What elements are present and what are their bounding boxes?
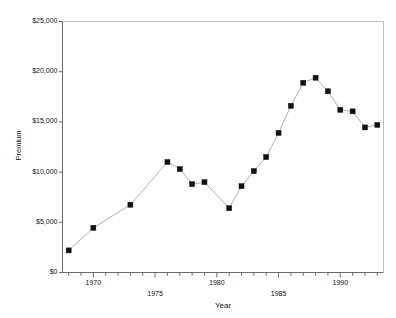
data-point-marker xyxy=(202,180,207,185)
data-point-marker xyxy=(227,206,232,211)
y-axis-title: Premium xyxy=(14,128,23,164)
premium-series-line xyxy=(69,78,378,251)
data-point-marker xyxy=(276,130,281,135)
data-point-marker xyxy=(362,125,367,130)
data-point-marker xyxy=(66,248,71,253)
x-tick-label: 1970 xyxy=(82,279,104,286)
y-tick-label: $25,000 xyxy=(32,17,57,24)
chart-plot-area xyxy=(0,0,396,318)
data-point-marker xyxy=(177,167,182,172)
x-tick-label: 1990 xyxy=(329,279,351,286)
data-point-marker xyxy=(190,182,195,187)
y-tick-label: $0 xyxy=(50,268,58,275)
data-point-marker xyxy=(91,225,96,230)
data-point-marker xyxy=(239,184,244,189)
data-point-marker xyxy=(288,103,293,108)
x-axis-ticks xyxy=(69,273,378,278)
y-tick-label: $15,000 xyxy=(32,117,57,124)
premium-vs-year-chart: $0$5,000$10,000$15,000$20,000$25,000 197… xyxy=(0,0,396,318)
y-tick-label: $5,000 xyxy=(36,218,57,225)
y-tick-label: $10,000 xyxy=(32,168,57,175)
y-tick-label: $20,000 xyxy=(32,67,57,74)
data-point-marker xyxy=(375,122,380,127)
x-tick-label: 1985 xyxy=(268,290,290,297)
data-point-marker xyxy=(301,80,306,85)
x-tick-label: 1975 xyxy=(144,290,166,297)
data-point-marker xyxy=(251,169,256,174)
data-point-marker xyxy=(325,89,330,94)
data-point-marker xyxy=(128,202,133,207)
data-point-marker xyxy=(165,160,170,165)
y-axis-ticks xyxy=(59,22,63,273)
data-point-marker xyxy=(338,107,343,112)
data-point-marker xyxy=(264,155,269,160)
data-point-marker xyxy=(313,75,318,80)
x-axis-title: Year xyxy=(63,301,384,310)
premium-series-markers xyxy=(66,75,380,253)
x-tick-label: 1980 xyxy=(206,279,228,286)
data-point-marker xyxy=(350,109,355,114)
plot-frame xyxy=(63,22,384,273)
